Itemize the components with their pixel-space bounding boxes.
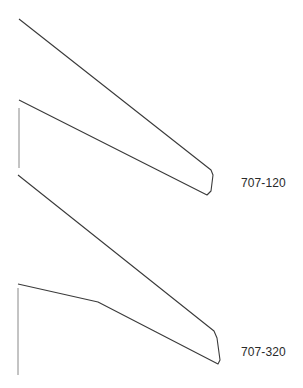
label-707-320: 707-320 <box>241 345 286 359</box>
wing-707-120 <box>19 19 213 195</box>
wing-outline-707-120 <box>19 19 213 195</box>
wing-707-320 <box>18 175 220 375</box>
wing-outline-707-320 <box>18 175 220 364</box>
label-707-120: 707-120 <box>241 176 286 190</box>
wing-planform-diagram <box>0 0 303 388</box>
